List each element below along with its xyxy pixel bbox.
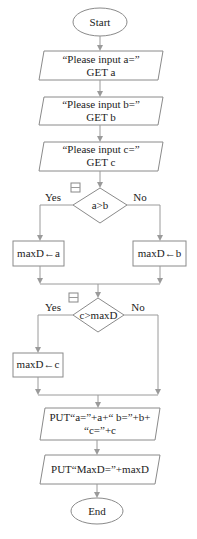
arrow-head [95,402,101,408]
arrow-head [37,278,43,284]
connector-yes-branch [40,205,73,238]
process-text: maxD←b [138,247,182,259]
output-text-line1: PUT“a=”+a+“ b=”+b+ [49,411,150,423]
arrow-head [35,389,41,395]
process-maxd-b: maxD←b [133,241,186,266]
no-branch-label: No [133,191,147,203]
input-prompt-text: “Please input a=” [62,53,139,65]
input-node-a: “Please input a=” GET a [39,51,163,80]
process-text: maxD←a [17,247,60,259]
minus-box-icon[interactable] [71,183,80,192]
start-node: Start [73,8,127,36]
decision-node-a-gt-b: a>b Yes No [45,183,147,223]
minus-box-icon[interactable] [69,293,78,302]
input-get-text: GET b [86,111,116,123]
connector-no-branch [127,205,160,238]
input-prompt-text: “Please input c=” [62,143,139,155]
arrow-head [35,347,41,353]
decision-condition: a>b [92,199,109,211]
start-label: Start [90,16,111,28]
arrow-head [155,389,161,395]
output-text-line2: “c=”+c [84,424,116,436]
arrow-head [97,136,103,142]
arrow-head [94,492,100,498]
end-node: End [71,498,123,524]
flowchart-diagram: Start “Please input a=” GET a “Please in… [0,0,197,539]
arrow-head [97,91,103,97]
connector-no-branch [124,315,158,392]
arrow-head [157,278,163,284]
input-get-text: GET c [87,156,116,168]
arrow-head [157,235,163,241]
input-node-b: “Please input b=” GET b [39,97,163,125]
process-maxd-a: maxD←a [13,241,64,266]
arrow-head [97,45,103,51]
yes-branch-label: Yes [45,191,61,203]
connector-yes-branch [38,315,73,350]
output-text-line1: PUT“MaxD=”+maxD [51,463,149,475]
yes-branch-label: Yes [45,301,61,313]
arrow-head [37,235,43,241]
decision-node-c-gt-maxd: c>maxD Yes No [45,293,145,332]
process-text: maxD←c [17,358,60,370]
output-node-values: PUT“a=”+a+“ b=”+b+ “c=”+c [40,408,160,440]
no-branch-label: No [131,301,145,313]
output-node-maxd: PUT“MaxD=”+maxD [40,455,160,484]
input-node-c: “Please input c=” GET c [39,142,163,171]
arrow-head [94,449,100,455]
input-prompt-text: “Please input b=” [62,98,140,110]
input-get-text: GET a [87,66,116,78]
arrow-head [97,182,103,188]
process-maxd-c: maxD←c [13,353,63,377]
arrow-head [95,292,101,298]
decision-condition: c>maxD [80,309,118,321]
end-label: End [88,505,106,517]
